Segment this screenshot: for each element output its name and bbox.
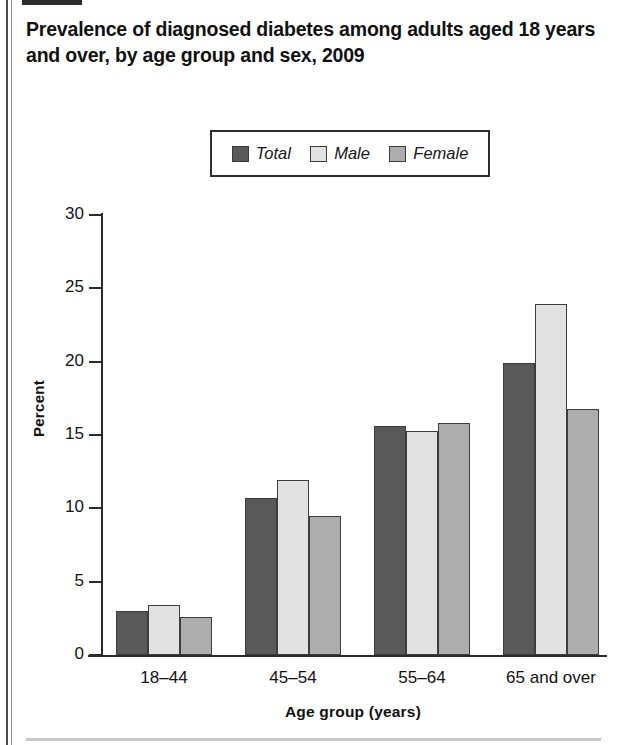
legend-swatch-female xyxy=(389,146,406,162)
legend-label-total: Total xyxy=(256,144,291,163)
y-axis-tick-label: 25 xyxy=(38,277,84,297)
bar-female-3 xyxy=(567,409,599,655)
x-axis-group-label-3: 65 and over xyxy=(481,668,621,688)
scan-artifact-top xyxy=(22,0,82,5)
x-axis-group-label-1: 45–54 xyxy=(223,668,363,688)
x-axis-group-label-2: 55–64 xyxy=(352,668,492,688)
legend-item-male: Male xyxy=(310,144,370,163)
bar-male-2 xyxy=(406,431,438,655)
chart-legend: Total Male Female xyxy=(210,130,490,177)
bar-total-2 xyxy=(374,426,406,655)
y-axis-tick xyxy=(89,361,101,363)
y-axis-tick-label: 0 xyxy=(38,644,84,664)
bar-total-0 xyxy=(116,611,148,655)
y-axis-tick xyxy=(89,434,101,436)
legend-item-total: Total xyxy=(232,144,291,163)
y-axis-tick-label-text: 5 xyxy=(44,571,84,591)
y-axis-tick xyxy=(89,287,101,289)
bar-total-1 xyxy=(245,498,277,655)
y-axis-tick xyxy=(89,581,101,583)
bar-female-2 xyxy=(438,423,470,655)
y-axis-tick-label-text: 30 xyxy=(44,204,84,224)
y-axis-tick-label: 30 xyxy=(38,204,84,224)
y-axis-tick-label-text: 15 xyxy=(44,424,84,444)
chart-figure: Prevalence of diagnosed diabetes among a… xyxy=(0,0,632,745)
bar-female-0 xyxy=(180,617,212,655)
bar-total-3 xyxy=(503,363,535,655)
y-axis-title: Percent xyxy=(30,349,47,469)
page-margin-rule-outer xyxy=(6,0,8,745)
x-axis-title: Age group (years) xyxy=(101,703,605,721)
plot-area xyxy=(101,215,605,655)
scan-artifact-bottom xyxy=(26,738,601,741)
chart-title: Prevalence of diagnosed diabetes among a… xyxy=(26,16,606,68)
y-axis-tick-label: 5 xyxy=(38,571,84,591)
y-axis-tick xyxy=(89,214,101,216)
y-axis-tick xyxy=(89,654,101,656)
y-axis-tick-label: 10 xyxy=(38,497,84,517)
bar-female-1 xyxy=(309,516,341,655)
y-axis-tick-label-text: 20 xyxy=(44,351,84,371)
y-axis-tick xyxy=(89,507,101,509)
y-axis-tick-label-text: 10 xyxy=(44,497,84,517)
bar-male-1 xyxy=(277,480,309,655)
legend-label-female: Female xyxy=(413,144,468,163)
y-axis-tick-label-text: 0 xyxy=(44,644,84,664)
bar-male-0 xyxy=(148,605,180,655)
legend-label-male: Male xyxy=(334,144,370,163)
x-axis-line xyxy=(88,655,607,657)
y-axis-tick-label-text: 25 xyxy=(44,277,84,297)
page-margin-rule-inner xyxy=(11,0,12,745)
legend-swatch-male xyxy=(310,146,327,162)
bar-male-3 xyxy=(535,304,567,655)
legend-swatch-total xyxy=(232,146,249,162)
legend-item-female: Female xyxy=(389,144,468,163)
x-axis-group-label-0: 18–44 xyxy=(94,668,234,688)
